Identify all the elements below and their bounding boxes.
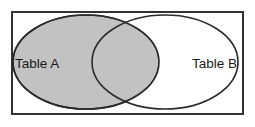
- venn-diagram-figure: Table A Table B: [0, 0, 255, 127]
- venn-diagram-canvas: Table A Table B: [0, 0, 255, 127]
- label-table-b: Table B: [192, 56, 237, 71]
- label-table-a: Table A: [15, 56, 59, 71]
